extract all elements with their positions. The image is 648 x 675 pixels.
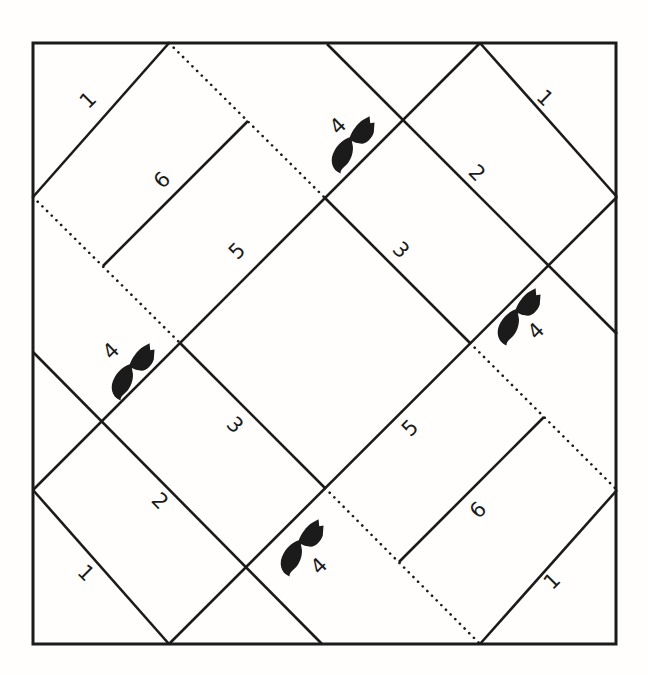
corner-triangle-ne-hypotenuse (480, 43, 617, 197)
corner-triangle-sw-hypotenuse (33, 490, 169, 644)
pattern-border-rect (33, 43, 616, 644)
strip-seam-se-band (399, 417, 544, 562)
piece-label-nw-corner-1: 1 (75, 87, 101, 113)
center-diamond-ne-edge (325, 198, 470, 343)
piece-label-4-left: 4 (98, 338, 124, 364)
piece-label-4-bottom: 4 (306, 553, 332, 579)
piece-label-nw-strip-5: 5 (224, 238, 250, 264)
fold-lines (33, 43, 617, 644)
piece-label-sw-corner-1: 1 (73, 560, 99, 586)
seam-lines (33, 43, 617, 644)
piece-label-se-strip-6: 6 (465, 497, 491, 523)
center-diamond-sw-edge (180, 343, 325, 488)
piece-label-sw-strip-2: 2 (147, 488, 173, 514)
piece-label-4-top: 4 (325, 113, 351, 139)
piece-label-nw-strip-6: 6 (149, 167, 175, 193)
piece-label-4-right: 4 (523, 318, 549, 344)
corner-triangle-nw-hypotenuse (33, 43, 169, 197)
fold-line-bottom (325, 488, 480, 644)
long-seam-sw-diagonal (33, 352, 322, 644)
pattern-page: 165123561321 4444 (0, 0, 648, 675)
piece-label-ne-strip-2: 2 (464, 160, 490, 186)
corner-triangle-se-hypotenuse (480, 490, 617, 644)
pattern-border (33, 43, 616, 644)
long-seam-ne-diagonal (327, 44, 617, 334)
quilt-block-diagram: 165123561321 4444 (0, 0, 648, 675)
fold-line-left (33, 197, 180, 343)
piece-label-sw-strip-3: 3 (222, 412, 248, 438)
piece-number-labels: 165123561321 (73, 85, 565, 594)
piece-label-se-strip-5: 5 (397, 415, 423, 441)
piece-label-ne-strip-3: 3 (388, 237, 414, 263)
